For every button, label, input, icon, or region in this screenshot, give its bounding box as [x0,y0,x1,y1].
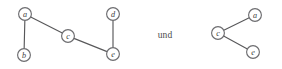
graph-edge-c-e [224,36,248,49]
right-graph-edges [224,18,250,49]
graph-edge-a-b [24,20,25,48]
node-label-b: b [22,51,26,60]
node-label-c: c [66,32,70,41]
graph-figure: abcdeace und [0,0,282,69]
graph-edge-c-e [74,38,107,51]
node-label-a: a [253,11,257,20]
graph-node-d: d [107,8,120,21]
conjunction-label: und [158,30,173,40]
left-graph-nodes: abcde [18,8,120,62]
graph-node-c: c [62,30,75,43]
graph-node-e: e [247,46,260,59]
node-label-c: c [216,29,220,38]
node-label-e: e [251,48,255,57]
graph-node-b: b [18,49,31,62]
node-label-a: a [23,10,27,19]
graph-node-e: e [107,48,120,61]
right-graph-nodes: ace [212,9,262,59]
graph-canvas: abcdeace und [0,0,282,69]
graph-edge-c-a [224,18,249,30]
graph-node-a: a [19,8,32,21]
graph-node-a: a [249,9,262,22]
graph-edge-a-c [31,17,63,33]
node-label-e: e [111,50,115,59]
nodes-layer: abcdeace [18,8,262,62]
graph-node-c: c [212,27,225,40]
